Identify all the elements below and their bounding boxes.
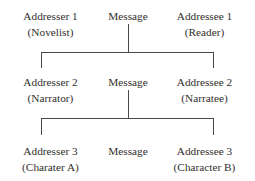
diagram-level-1: Addresser 1 (Novelist) Message Addressee…	[0, 8, 255, 42]
diagram-level-2: Addresser 2 (Narrator) Message Addressee…	[0, 74, 255, 108]
level-2-addresser-label: Addresser 2	[0, 74, 101, 90]
level-1-addresser: Addresser 1 (Novelist)	[0, 8, 101, 40]
diagram-level-3: Addresser 3 (Charater A) Message Address…	[0, 143, 255, 177]
level-3-addressee: Addressee 3 (Character B)	[154, 143, 255, 175]
level-3-addresser-role: (Charater A)	[0, 159, 101, 175]
level-2-addresser: Addresser 2 (Narrator)	[0, 74, 101, 106]
level-2-addresser-role: (Narrator)	[0, 90, 101, 106]
narrative-communication-diagram: Addresser 1 (Novelist) Message Addressee…	[0, 0, 255, 181]
level-3-addressee-role: (Character B)	[154, 159, 255, 175]
level-3-message-label: Message	[95, 143, 161, 159]
level-1-addressee: Addressee 1 (Reader)	[154, 8, 255, 40]
level-1-addressee-label: Addressee 1	[154, 8, 255, 24]
level-1-message: Message	[95, 8, 161, 24]
level-2-message-label: Message	[95, 74, 161, 90]
level-2-addressee: Addressee 2 (Narratee)	[154, 74, 255, 106]
level-1-addresser-label: Addresser 1	[0, 8, 101, 24]
level-1-addressee-role: (Reader)	[154, 24, 255, 40]
level-3-addressee-label: Addressee 3	[154, 143, 255, 159]
level-3-addresser: Addresser 3 (Charater A)	[0, 143, 101, 175]
level-2-message: Message	[95, 74, 161, 90]
level-1-addresser-role: (Novelist)	[0, 24, 101, 40]
level-1-message-label: Message	[95, 8, 161, 24]
level-3-message: Message	[95, 143, 161, 159]
level-2-addressee-label: Addressee 2	[154, 74, 255, 90]
level-3-addresser-label: Addresser 3	[0, 143, 101, 159]
level-2-addressee-role: (Narratee)	[154, 90, 255, 106]
